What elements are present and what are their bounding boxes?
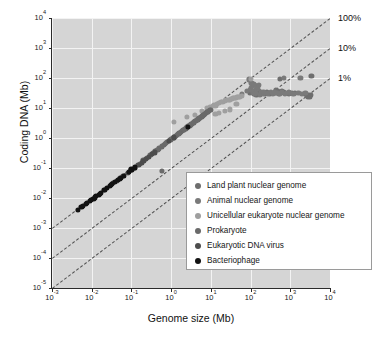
legend-item-3[interactable]: Unicellular eukaryote nuclear genome [193, 208, 365, 223]
clipped-top-text [118, 0, 368, 7]
x-tick-label: 104 [316, 293, 344, 302]
legend-marker-icon [195, 228, 201, 234]
y-tick-label: 10-4 [20, 253, 46, 262]
data-point [239, 94, 244, 99]
y-tick-mark [49, 78, 52, 79]
legend-label: Bacteriophage [207, 256, 260, 266]
data-point [75, 207, 80, 212]
legend-marker-icon [195, 243, 201, 249]
legend-item-6[interactable]: Bacteriophage [193, 253, 365, 268]
legend-item-5[interactable]: Eukaryotic DNA virus [193, 238, 365, 253]
x-tick-label: 10-1 [117, 293, 145, 302]
y-tick-label: 10-2 [20, 193, 46, 202]
data-point [234, 101, 239, 106]
legend-item-4[interactable]: Prokaryote [193, 223, 365, 238]
x-tick-mark [290, 289, 291, 292]
data-point [152, 150, 157, 155]
legend-label: Eukaryotic DNA virus [207, 241, 284, 251]
legend-marker-icon [195, 213, 201, 219]
percent-label-10pct: 10% [338, 43, 356, 53]
data-point [172, 135, 177, 140]
percent-label-100pct: 100% [338, 13, 361, 23]
y-tick-label: 10-5 [20, 283, 46, 292]
x-tick-label: 103 [276, 293, 304, 302]
gridline-horizontal [52, 138, 330, 139]
gridline-vertical [52, 18, 53, 288]
y-tick-label: 10-3 [20, 223, 46, 232]
y-axis-title: Coding DNA (Mb) [18, 62, 30, 182]
legend-label: Land plant nuclear genome [207, 181, 306, 191]
legend-marker-icon [195, 258, 201, 264]
x-tick-mark [330, 289, 331, 292]
data-point [227, 107, 232, 112]
data-point [176, 131, 181, 136]
x-tick-mark [251, 289, 252, 292]
data-point [172, 120, 177, 125]
gridline-horizontal [52, 18, 330, 19]
legend-marker-icon [195, 183, 201, 189]
x-tick-label: 10-3 [38, 293, 66, 302]
data-point [216, 110, 221, 115]
gridline-horizontal [52, 168, 330, 169]
y-tick-mark [49, 168, 52, 169]
x-tick-mark [131, 289, 132, 292]
y-tick-mark [49, 18, 52, 19]
y-tick-label: 104 [20, 13, 46, 22]
figure-root: 10-510-410-310-210-1100101102103104 10-3… [0, 0, 377, 338]
legend-label: Animal nuclear genome [207, 196, 293, 206]
gridline-vertical [171, 18, 172, 288]
legend-item-2[interactable]: Animal nuclear genome [193, 193, 365, 208]
legend-marker-icon [195, 198, 201, 204]
y-tick-label: 103 [20, 43, 46, 52]
legend: Land plant nuclear genomeAnimal nuclear … [186, 172, 372, 270]
data-point [121, 173, 126, 178]
data-point [92, 195, 97, 200]
y-tick-mark [49, 48, 52, 49]
data-point [298, 75, 303, 80]
percent-label-1pct: 1% [338, 73, 351, 83]
y-tick-mark [49, 138, 52, 139]
legend-label: Unicellular eukaryote nuclear genome [207, 211, 344, 221]
x-tick-label: 102 [237, 293, 265, 302]
y-axis-line [51, 18, 52, 289]
x-tick-label: 10-2 [78, 293, 106, 302]
y-tick-mark [49, 198, 52, 199]
x-tick-mark [211, 289, 212, 292]
x-tick-mark [92, 289, 93, 292]
data-point [103, 187, 108, 192]
y-tick-mark [49, 258, 52, 259]
data-point [108, 183, 113, 188]
legend-item-1[interactable]: Land plant nuclear genome [193, 178, 365, 193]
y-tick-mark [49, 228, 52, 229]
x-axis-title: Genome size (Mb) [52, 312, 330, 324]
y-tick-mark [49, 108, 52, 109]
data-point [205, 109, 210, 114]
data-point [184, 114, 189, 119]
data-point [117, 176, 122, 181]
legend-label: Prokaryote [207, 226, 247, 236]
x-tick-mark [171, 289, 172, 292]
gridline-vertical [131, 18, 132, 288]
data-point [97, 191, 102, 196]
x-tick-label: 100 [157, 293, 185, 302]
x-tick-label: 101 [197, 293, 225, 302]
x-tick-mark [52, 289, 53, 292]
gridline-vertical [92, 18, 93, 288]
